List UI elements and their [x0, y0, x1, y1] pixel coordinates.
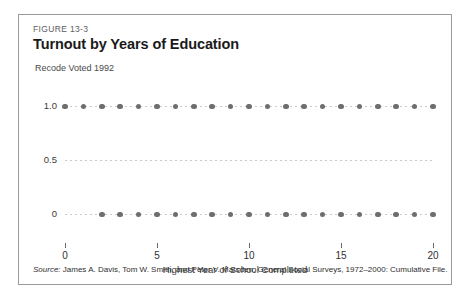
- data-point: [62, 104, 68, 110]
- data-point: [228, 104, 234, 110]
- x-tick-label: 0: [62, 250, 68, 261]
- x-tick-label: 15: [335, 250, 346, 261]
- grid-row: 0.5: [33, 155, 437, 167]
- data-point: [375, 104, 381, 110]
- x-tick-label: 20: [427, 250, 438, 261]
- data-point: [393, 212, 399, 218]
- dot-layer: [33, 155, 437, 167]
- data-point: [320, 104, 326, 110]
- data-point: [301, 104, 307, 110]
- grid-row: 0: [33, 209, 437, 221]
- data-point: [412, 212, 418, 218]
- data-point: [320, 212, 326, 218]
- data-point: [228, 212, 234, 218]
- data-point: [393, 104, 399, 110]
- data-point: [412, 104, 418, 110]
- data-point: [173, 212, 179, 218]
- data-point: [375, 212, 381, 218]
- data-point: [154, 212, 160, 218]
- data-point: [154, 104, 160, 110]
- y-axis-title: Recode Voted 1992: [35, 63, 114, 73]
- data-point: [136, 104, 142, 110]
- figure-frame: FIGURE 13-3 Turnout by Years of Educatio…: [18, 14, 452, 285]
- dot-layer: [33, 101, 437, 113]
- data-point: [209, 212, 215, 218]
- data-point: [117, 212, 123, 218]
- data-point: [338, 212, 344, 218]
- data-point: [301, 212, 307, 218]
- data-point: [357, 212, 363, 218]
- x-tick-mark: [433, 243, 434, 248]
- source-label: Source:: [33, 265, 61, 274]
- dot-layer: [33, 209, 437, 221]
- data-point: [265, 212, 271, 218]
- data-point: [430, 212, 436, 218]
- data-point: [173, 104, 179, 110]
- data-point: [99, 104, 105, 110]
- data-point: [191, 104, 197, 110]
- figure-number: FIGURE 13-3: [33, 24, 88, 34]
- x-tick-label: 10: [243, 250, 254, 261]
- data-point: [209, 104, 215, 110]
- data-point: [136, 212, 142, 218]
- data-point: [283, 212, 289, 218]
- x-tick-label: 5: [154, 250, 160, 261]
- page-title: Turnout by Years of Education: [33, 36, 239, 52]
- source-note: Source: James A. Davis, Tom W. Smith, an…: [33, 265, 447, 274]
- data-point: [81, 104, 87, 110]
- data-point: [246, 212, 252, 218]
- data-point: [246, 104, 252, 110]
- x-tick-mark: [341, 243, 342, 248]
- data-point: [338, 104, 344, 110]
- grid-row: 1.0: [33, 101, 437, 113]
- x-tick-mark: [157, 243, 158, 248]
- data-point: [283, 104, 289, 110]
- x-tick-mark: [65, 243, 66, 248]
- source-text: James A. Davis, Tom W. Smith, and Peter …: [61, 265, 448, 274]
- chart-plot-area: Recode Voted 1992 1.00.50: [33, 63, 437, 248]
- data-point: [357, 104, 363, 110]
- data-point: [117, 104, 123, 110]
- data-point: [265, 104, 271, 110]
- x-axis: 05101520 Highest Year of School Complete…: [33, 243, 437, 283]
- data-point: [99, 212, 105, 218]
- data-point: [430, 104, 436, 110]
- data-point: [191, 212, 197, 218]
- x-tick-mark: [249, 243, 250, 248]
